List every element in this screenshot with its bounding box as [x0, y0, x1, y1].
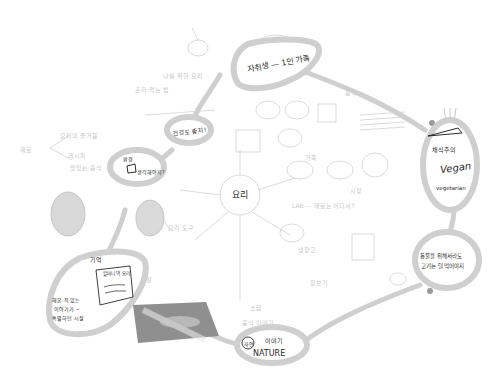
faint-note: 가족 [305, 154, 317, 162]
pinecone-images [51, 192, 164, 236]
salt-photo [133, 302, 219, 343]
pinecone-image [51, 192, 85, 236]
faint-note: 레시피 [68, 152, 86, 160]
environment-line2: 생각해야지? [137, 169, 165, 176]
center-label: 요리 [232, 190, 248, 200]
node-memory[interactable]: 기억 할머니 댁 요리 해본 적 없는 이야기가 ~ 특별하던 시절 [49, 252, 146, 335]
center-node[interactable]: 요리 [232, 190, 248, 200]
memory-tag: 기억 [90, 256, 102, 264]
nature-label-ko: 이야기 [265, 337, 283, 345]
memory-card-text: 할머니 댁 요리 [103, 270, 130, 277]
node-animals[interactable]: 동물을 위해서라도 고기는 덜 먹어야지 [415, 232, 479, 288]
environment-line1: 환경 [123, 156, 133, 162]
faint-note: 냉장고 [298, 246, 316, 253]
faint-note: 요리의 즐거움 [60, 132, 98, 140]
faint-note: 소금 [250, 304, 262, 311]
vegetarian-label: vegetarian [436, 185, 466, 192]
node-environment[interactable]: 환경 생각해야지? [110, 150, 165, 184]
faint-note: 재료 [20, 146, 32, 154]
mind-map-canvas: 나를 위한 요리 혼자 먹는 밥 요리의 즐거움 재료 레시피 맛있는 음식 음… [0, 0, 496, 378]
faint-note: 맛있는 음식 [70, 164, 102, 172]
node-health[interactable]: 건강도 좋지! [167, 117, 211, 143]
vegan-label-ko: 채식주의 [432, 146, 456, 154]
faint-note: 음악 [345, 89, 357, 97]
pinecone-image [136, 200, 164, 236]
faint-note: 장보기 [310, 279, 328, 287]
node-single-household[interactable]: 자취생 — 1인 가족 [234, 40, 319, 89]
animals-line1: 동물을 위해서라도 [420, 252, 462, 260]
faint-note: LAB — 재료는 어디서? [292, 202, 355, 210]
nature-label-en: NATURE [253, 349, 285, 358]
nature-circle-label: 자연 [244, 341, 254, 348]
memory-note1: 해본 적 없는 [52, 297, 80, 304]
faint-note: 혼자 먹는 밥 [135, 86, 169, 94]
node-nature[interactable]: 자연 이야기 NATURE [237, 327, 307, 363]
faint-note: 나를 위한 요리 [163, 72, 203, 80]
faint-note: 시장 [350, 187, 362, 194]
faint-note: 요리 도구 [168, 224, 194, 232]
animals-line2: 고기는 덜 먹어야지 [421, 262, 465, 270]
memory-note3: 특별하던 시절 [52, 315, 84, 322]
memory-note2: 이야기가 ~ [54, 306, 80, 313]
